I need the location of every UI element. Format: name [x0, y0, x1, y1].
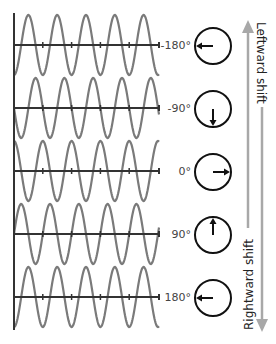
phasor-arrow-icon — [196, 43, 213, 50]
down-arrow — [256, 107, 268, 332]
phasor-arrow-icon — [210, 109, 217, 126]
phasor-arrow-icon — [213, 169, 230, 176]
phase-row: 90° — [14, 217, 231, 253]
phase-shift-diagram: -180°-90°0°90°180° Leftward shift Rightw… — [0, 0, 276, 344]
phasor-arrow-icon — [196, 295, 213, 302]
phase-label: -90° — [168, 102, 191, 115]
phasor-arrow-icon — [210, 218, 217, 235]
phase-label: 0° — [179, 165, 192, 178]
rightward-shift-label: Rightward shift — [242, 239, 256, 330]
phase-rows: -180°-90°0°90°180° — [14, 28, 231, 316]
phase-row: 0° — [14, 154, 231, 190]
phase-row: -90° — [14, 91, 231, 127]
leftward-shift-label: Leftward shift — [254, 22, 268, 104]
phase-row: 180° — [14, 280, 231, 316]
phase-label: 180° — [165, 291, 192, 304]
up-arrow — [242, 20, 254, 228]
phase-label: -180° — [161, 39, 191, 52]
phase-row: -180° — [14, 28, 231, 64]
phase-label: 90° — [172, 228, 192, 241]
